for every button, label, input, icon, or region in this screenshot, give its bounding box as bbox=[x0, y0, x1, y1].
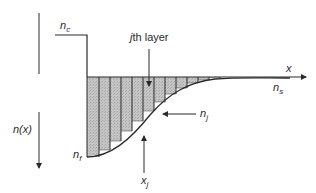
profile-diagram bbox=[0, 0, 316, 193]
label-nx: n(x) bbox=[13, 124, 32, 135]
label-ns: ns bbox=[273, 82, 283, 96]
label-x-axis: x bbox=[286, 63, 292, 74]
label-nc: nc bbox=[60, 20, 70, 34]
label-jth-layer: jth layer bbox=[130, 32, 169, 43]
label-xj: xj bbox=[141, 175, 148, 189]
label-nj: nj bbox=[200, 108, 208, 122]
cladding-step bbox=[55, 35, 87, 77]
label-nf: nf bbox=[73, 149, 81, 163]
